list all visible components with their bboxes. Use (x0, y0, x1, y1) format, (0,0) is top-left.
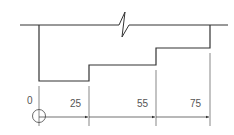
top-line (20, 12, 228, 37)
dimension-label-25: 25 (70, 98, 82, 109)
diagram-canvas: 0 25 55 75 (0, 0, 234, 135)
extension-lines (39, 53, 210, 126)
break-symbol-icon (119, 12, 129, 37)
dimension-label-75: 75 (190, 98, 202, 109)
stepped-profile-drawing: 0 25 55 75 (0, 0, 234, 135)
dimension-label-55: 55 (137, 98, 149, 109)
origin-label: 0 (27, 95, 33, 106)
